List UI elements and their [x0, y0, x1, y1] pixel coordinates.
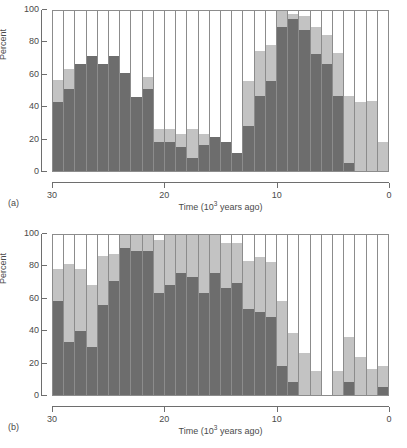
bar-segment-light: [187, 235, 197, 277]
bar-column: [109, 235, 120, 395]
bar-segment-light: [109, 254, 119, 281]
bar-segment-dark: [120, 73, 130, 171]
bar-segment-dark: [131, 97, 141, 171]
bar-segment-light: [120, 235, 130, 248]
bar-segment-light: [199, 134, 209, 145]
bar-segment-dark: [255, 312, 265, 395]
bar-segment-dark: [64, 89, 74, 171]
bar-segment-light: [378, 366, 388, 387]
bar-segment-light: [311, 371, 321, 395]
bar-segment-dark: [221, 142, 231, 171]
y-axis-tick: 20: [42, 139, 47, 140]
bar-column: [131, 235, 142, 395]
bar-segment-light: [154, 240, 164, 293]
x-axis-label-a: Time (103 years ago): [52, 200, 389, 212]
bar-column: [199, 235, 210, 395]
bar-segment-light: [299, 16, 309, 30]
bar-series-a: [53, 11, 388, 171]
bar-column: [333, 11, 344, 171]
y-axis-tick: 100: [42, 9, 47, 10]
bar-column: [187, 235, 198, 395]
x-axis-a: 3020100: [52, 182, 389, 188]
bar-segment-light: [131, 235, 141, 251]
bar-segment-light: [143, 77, 153, 90]
x-axis-label-suffix: years ago): [217, 426, 262, 436]
y-axis-tick: 40: [42, 330, 47, 331]
bar-column: [255, 235, 266, 395]
bar-column: [143, 235, 154, 395]
x-axis-tick: [164, 183, 165, 188]
bar-column: [154, 235, 165, 395]
bar-column: [176, 11, 187, 171]
bar-column: [221, 235, 232, 395]
bar-segment-dark: [199, 145, 209, 171]
bar-column: [87, 235, 98, 395]
bar-segment-light: [165, 235, 175, 285]
bar-segment-light: [210, 235, 220, 273]
bar-segment-light: [64, 264, 74, 342]
bar-column: [288, 11, 299, 171]
y-axis-tick-label: 0: [34, 166, 39, 177]
bar-segment-light: [221, 243, 231, 288]
bar-column: [299, 11, 310, 171]
bar-series-b: [53, 235, 388, 395]
bar-column: [87, 11, 98, 171]
bar-segment-dark: [165, 285, 175, 395]
panel-a: 020406080100 Percent 3020100 Time (103 y…: [0, 0, 407, 224]
bar-segment-dark: [221, 288, 231, 395]
bar-segment-light: [243, 261, 253, 309]
bar-column: [199, 11, 210, 171]
x-axis-tick: [389, 407, 390, 412]
bar-segment-dark: [277, 366, 287, 395]
bar-segment-light: [333, 371, 343, 395]
bar-column: [367, 235, 378, 395]
bar-column: [266, 11, 277, 171]
bar-column: [120, 235, 131, 395]
bar-segment-dark: [333, 96, 343, 171]
bar-segment-light: [87, 285, 97, 347]
x-axis-tick: [277, 407, 278, 412]
bar-segment-dark: [75, 331, 85, 395]
bar-segment-dark: [98, 64, 108, 171]
bar-segment-dark: [322, 64, 332, 171]
bar-column: [288, 235, 299, 395]
bar-segment-dark: [64, 342, 74, 395]
bar-segment-light: [64, 69, 74, 90]
y-axis-tick-label: 20: [29, 358, 39, 369]
bar-segment-light: [311, 27, 321, 54]
bar-column: [277, 11, 288, 171]
x-axis-label-b: Time (103 years ago): [52, 424, 389, 436]
plot-area-b: [52, 234, 389, 396]
y-axis-tick: 0: [42, 395, 47, 396]
bar-column: [322, 11, 333, 171]
bar-segment-dark: [311, 54, 321, 171]
bar-segment-dark: [344, 163, 354, 171]
bar-segment-light: [277, 301, 287, 367]
x-axis-tick: [277, 183, 278, 188]
bar-segment-dark: [344, 382, 354, 395]
y-axis-tick-label: 40: [29, 325, 39, 336]
bar-column: [344, 11, 355, 171]
bar-segment-dark: [255, 96, 265, 171]
bar-segment-dark: [187, 158, 197, 171]
panel-b: 020406080100 Percent 3020100 Time (103 y…: [0, 224, 407, 448]
bar-column: [131, 11, 142, 171]
bar-column: [299, 235, 310, 395]
bar-segment-dark: [87, 56, 97, 171]
bar-segment-light: [176, 134, 186, 147]
y-axis-tick: 80: [42, 265, 47, 266]
panel-tag-a: (a): [8, 198, 19, 208]
y-axis-tick: 0: [42, 171, 47, 172]
bar-column: [210, 11, 221, 171]
x-axis-label-suffix: years ago): [217, 202, 262, 212]
bar-segment-light: [255, 51, 265, 96]
bar-column: [53, 235, 64, 395]
bar-segment-light: [199, 235, 209, 293]
y-axis-b: 020406080100: [41, 234, 48, 396]
bar-segment-dark: [120, 248, 130, 395]
bar-segment-dark: [232, 153, 242, 171]
bar-segment-dark: [143, 251, 153, 395]
panel-tag-b: (b): [8, 422, 19, 432]
bar-segment-dark: [210, 273, 220, 395]
y-axis-tick-label: 100: [24, 4, 39, 15]
